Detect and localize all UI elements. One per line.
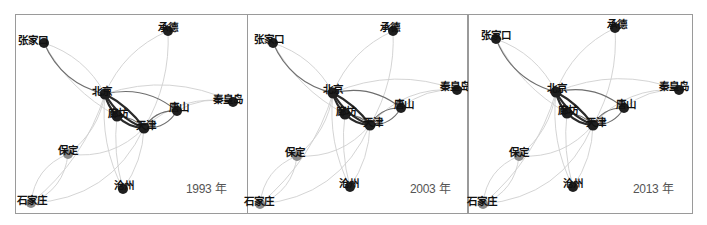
city-label: 沧州 (114, 179, 134, 191)
edge-weak (496, 39, 567, 113)
city-node: 天津 (363, 116, 384, 131)
edge-weak (566, 113, 573, 187)
city-label: 廊坊 (558, 104, 579, 116)
edge-weak (273, 43, 345, 114)
city-label: 张家口 (481, 29, 511, 41)
city-node: 秦皇岛 (212, 93, 243, 107)
edge-weak (297, 125, 370, 156)
city-node: 唐山 (394, 98, 414, 113)
city-node: 天津 (136, 119, 157, 134)
city-node: 保定 (57, 144, 79, 159)
city-node: 沧州 (563, 177, 583, 192)
city-label: 保定 (284, 146, 306, 158)
city-label: 保定 (57, 144, 79, 156)
city-label: 沧州 (563, 177, 583, 189)
panel-2003: 张家口承德北京秦皇岛唐山廊坊天津保定沧州石家庄 2003 年 (247, 14, 468, 214)
city-node: 石家庄 (466, 195, 498, 209)
city-node: 北京 (547, 82, 568, 98)
city-label: 唐山 (394, 98, 414, 110)
city-label: 保定 (508, 146, 530, 158)
edge-weak (593, 28, 615, 125)
city-node: 保定 (508, 146, 530, 161)
year-label: 2003 年 (410, 179, 450, 196)
city-node: 张家口 (18, 34, 49, 48)
city-label: 石家庄 (243, 195, 275, 207)
year-label: 2013 年 (633, 179, 673, 196)
city-label: 唐山 (616, 98, 636, 110)
edge-weak (68, 128, 144, 155)
city-label: 天津 (363, 116, 384, 128)
city-label: 秦皇岛 (212, 93, 243, 105)
city-label: 石家庄 (16, 194, 48, 206)
city-label: 北京 (547, 82, 568, 94)
city-label: 天津 (136, 119, 157, 131)
city-node: 北京 (323, 83, 344, 99)
year-label: 1993 年 (186, 179, 226, 196)
city-label: 秦皇岛 (658, 80, 689, 92)
network-figure: 张家口承德北京秦皇岛唐山廊坊天津保定沧州石家庄 1993 年 张家口承德北京秦皇… (0, 0, 707, 225)
city-node: 天津 (586, 116, 607, 131)
city-label: 石家庄 (466, 195, 498, 207)
city-node: 沧州 (114, 179, 134, 194)
city-label: 天津 (586, 116, 607, 128)
city-node: 唐山 (616, 98, 636, 113)
city-node: 沧州 (339, 177, 359, 192)
city-node: 秦皇岛 (439, 80, 470, 95)
city-label: 张家口 (254, 33, 284, 45)
city-label: 北京 (92, 85, 113, 97)
city-label: 沧州 (339, 177, 359, 189)
city-label: 唐山 (169, 101, 189, 113)
city-label: 承德 (380, 21, 401, 33)
panel-1993: 张家口承德北京秦皇岛唐山廊坊天津保定沧州石家庄 1993 年 (15, 14, 248, 214)
panel-2013: 张家口承德北京秦皇岛唐山廊坊天津保定沧州石家庄 2013 年 (468, 14, 693, 214)
city-label: 北京 (323, 83, 344, 95)
city-label: 廊坊 (108, 107, 129, 119)
edge-weak (44, 43, 117, 116)
edge-weak (144, 31, 168, 128)
edge-weak (370, 31, 393, 125)
city-node: 承德 (380, 21, 401, 36)
city-node: 石家庄 (16, 194, 48, 208)
city-label: 承德 (158, 21, 179, 33)
city-node: 张家口 (481, 29, 511, 44)
city-label: 张家口 (18, 34, 48, 46)
city-node: 保定 (284, 146, 306, 161)
city-label: 承德 (607, 18, 628, 30)
city-node: 石家庄 (243, 195, 275, 209)
city-node: 秦皇岛 (658, 80, 689, 95)
city-node: 唐山 (169, 101, 189, 116)
city-label: 廊坊 (336, 105, 357, 117)
city-label: 秦皇岛 (439, 80, 470, 92)
